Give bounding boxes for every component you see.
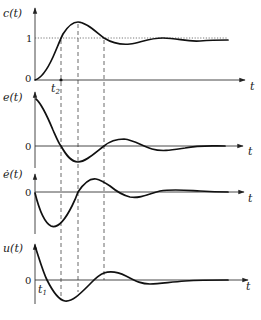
- panel-c: c(t) 1 0 t t2: [3, 7, 255, 96]
- edot-ylabel: ė(t): [3, 168, 23, 181]
- t2-marker-dot: [59, 78, 62, 81]
- e-t-label: t: [248, 145, 253, 158]
- c-zero-label: 0: [25, 73, 31, 84]
- guide-lines: [61, 24, 104, 300]
- t2-label: t2: [51, 82, 60, 96]
- panel-edot: ė(t) 0 t: [3, 168, 253, 234]
- edot-zero-label: 0: [25, 187, 31, 198]
- control-response-diagram: c(t) 1 0 t t2 e(t) 0 t ė(t) 0 t u(t) 0 t…: [0, 0, 261, 320]
- c-level-label: 1: [26, 33, 32, 44]
- e-curve: [36, 99, 225, 162]
- edot-curve: [35, 179, 228, 227]
- c-ylabel: c(t): [3, 7, 22, 20]
- u-t-label: t: [246, 280, 251, 293]
- u-ylabel: u(t): [3, 242, 23, 255]
- u-curve: [35, 246, 228, 301]
- panel-e: e(t) 0 t: [3, 91, 253, 168]
- panel-u: u(t) 0 t1 t: [3, 242, 251, 304]
- e-zero-label: 0: [25, 141, 31, 152]
- c-curve: [35, 22, 228, 80]
- t1-label: t1: [38, 283, 47, 297]
- c-t-label: t: [250, 80, 255, 93]
- e-ylabel: e(t): [3, 91, 23, 104]
- edot-t-label: t: [248, 192, 253, 205]
- u-zero-label: 0: [25, 275, 31, 286]
